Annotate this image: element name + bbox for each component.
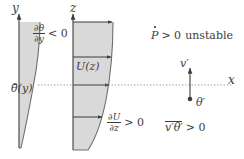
theta-bar-profile-label: θ̄(y)	[11, 83, 32, 94]
eddy-flux-annotation: v′θ′> 0	[165, 122, 206, 133]
stability-annotation: P> 0unstable	[151, 30, 233, 41]
theta-gradient-numerator: ∂θ	[33, 23, 45, 34]
u-gradient-relation: > 0	[121, 117, 144, 128]
z-axis-label: z	[70, 2, 76, 14]
theta-gradient-denominator: ∂y	[33, 34, 45, 44]
u-gradient-numerator: ∂U	[107, 112, 121, 123]
stability-relation: > 0	[158, 29, 181, 42]
u-gradient-annotation: ∂U ∂z > 0	[107, 112, 144, 134]
theta-gradient-fraction: ∂θ ∂y	[33, 23, 45, 45]
u-gradient-denominator: ∂z	[107, 123, 121, 133]
theta-gradient-relation: < 0	[45, 28, 68, 39]
vprime-label: v′	[180, 58, 189, 69]
p-dot-symbol: P	[151, 30, 158, 41]
thetaprime-label: θ′	[196, 97, 205, 108]
x-axis-label: x	[228, 74, 235, 86]
stability-word: unstable	[181, 29, 233, 42]
theta-gradient-annotation: ∂θ ∂y < 0	[33, 23, 68, 45]
thetaprime-parcel-dot	[188, 97, 193, 102]
figure-canvas: y z x θ̄(y) U(z) ∂θ ∂y < 0 ∂U ∂z > 0 P> …	[0, 0, 244, 159]
u-of-z-profile-label: U(z)	[76, 61, 100, 72]
eddy-flux-quantity: v′θ′	[165, 122, 183, 133]
u-gradient-fraction: ∂U ∂z	[107, 112, 121, 134]
y-axis-label: y	[12, 2, 19, 14]
eddy-flux-relation: > 0	[183, 121, 206, 134]
